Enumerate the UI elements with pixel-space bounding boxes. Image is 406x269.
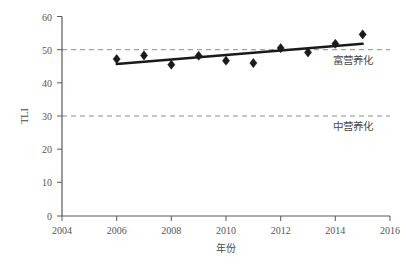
y-tick-label-50: 50 — [42, 45, 52, 56]
x-tick-label-2012: 2012 — [271, 225, 291, 236]
x-tick-label-2006: 2006 — [107, 225, 127, 236]
y-tick-label-10: 10 — [42, 177, 52, 188]
x-tick-label-2008: 2008 — [161, 225, 181, 236]
x-tick-label-2014: 2014 — [325, 225, 345, 236]
chart-figure: 60 50 40 30 20 10 0 TLI 2004 2006 2008 2… — [0, 0, 406, 269]
x-tick-label-2010: 2010 — [216, 225, 236, 236]
y-tick-label-40: 40 — [42, 78, 52, 89]
x-tick-label-2004: 2004 — [52, 225, 72, 236]
y-tick-label-30: 30 — [42, 111, 52, 122]
y-axis-title: TLI — [19, 108, 30, 124]
y-tick-label-20: 20 — [42, 144, 52, 155]
eutrophic-annotation-label: 富营养化 — [333, 54, 374, 66]
y-tick-label-0: 0 — [47, 211, 52, 222]
x-tick-label-2016: 2016 — [380, 225, 400, 236]
mesotrophic-annotation-label: 中营养化 — [333, 120, 374, 132]
y-tick-label-60: 60 — [42, 12, 52, 23]
trophic-level-index-chart: 60 50 40 30 20 10 0 TLI 2004 2006 2008 2… — [0, 0, 406, 269]
x-axis-title: 年份 — [216, 242, 236, 254]
